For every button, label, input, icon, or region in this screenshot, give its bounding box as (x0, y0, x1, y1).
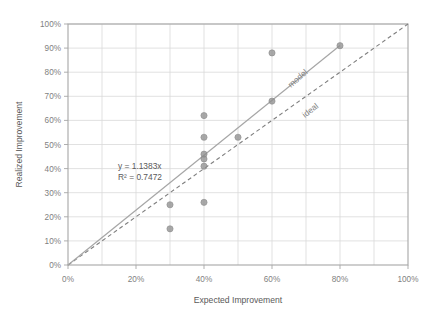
data-point (235, 134, 241, 140)
y-tick-label: 0% (49, 261, 61, 270)
y-tick-label: 50% (45, 141, 61, 150)
data-points (167, 43, 343, 232)
data-point (201, 112, 207, 118)
data-point (269, 50, 275, 56)
x-tick-label: 40% (196, 275, 212, 284)
chart-text-labels: 0%10%20%30%40%50%60%70%80%90%100%0%20%40… (14, 20, 418, 305)
x-tick-label: 20% (128, 275, 144, 284)
y-tick-label: 60% (45, 116, 61, 125)
y-tick-label: 30% (45, 189, 61, 198)
data-point (201, 134, 207, 140)
y-tick-label: 100% (40, 20, 61, 29)
data-point (201, 199, 207, 205)
data-point (201, 163, 207, 169)
x-tick-label: 100% (398, 275, 419, 284)
y-tick-label: 70% (45, 92, 61, 101)
r-squared-label: R² = 0.7472 (118, 172, 162, 182)
y-tick-label: 10% (45, 237, 61, 246)
x-tick-label: 0% (62, 275, 74, 284)
data-point (337, 43, 343, 49)
equation-label: y = 1.1383x (118, 161, 162, 171)
y-tick-label: 20% (45, 213, 61, 222)
ideal-series-label: ideal (300, 101, 320, 120)
data-point (167, 226, 173, 232)
chart-canvas: 0%10%20%30%40%50%60%70%80%90%100%0%20%40… (0, 0, 434, 323)
y-tick-label: 80% (45, 68, 61, 77)
scatter-chart: 0%10%20%30%40%50%60%70%80%90%100%0%20%40… (0, 0, 434, 323)
data-point (269, 98, 275, 104)
y-tick-label: 90% (45, 44, 61, 53)
y-axis-title: Realized Improvement (14, 101, 24, 188)
data-point (167, 202, 173, 208)
data-point (201, 156, 207, 162)
x-tick-label: 60% (264, 275, 280, 284)
x-tick-label: 80% (332, 275, 348, 284)
y-tick-label: 40% (45, 165, 61, 174)
x-axis-title: Expected Improvement (194, 295, 283, 305)
